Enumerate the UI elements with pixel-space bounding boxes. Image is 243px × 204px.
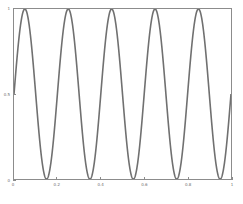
y-tick-label: 0.5	[4, 92, 10, 97]
x-tick-label: 0.2	[54, 182, 60, 187]
x-tick-mark	[56, 177, 57, 180]
x-tick-mark	[232, 177, 233, 180]
x-tick-mark	[188, 177, 189, 180]
y-tick-mark	[13, 94, 16, 95]
sine-curve	[14, 9, 231, 179]
x-tick-label: 0.8	[185, 182, 191, 187]
plot-area	[13, 8, 232, 180]
y-tick-label: 0	[7, 178, 10, 183]
x-tick-label: 0	[12, 182, 15, 187]
y-tick-mark	[13, 8, 16, 9]
y-tick-label: 1	[7, 6, 10, 11]
x-tick-mark	[144, 177, 145, 180]
x-tick-label: 0.6	[141, 182, 147, 187]
y-tick-mark	[13, 180, 16, 181]
x-tick-mark	[100, 177, 101, 180]
x-tick-label: 0.4	[97, 182, 103, 187]
x-tick-label: 1	[231, 182, 234, 187]
sine-curve-path	[14, 9, 231, 179]
chart-figure: 00.20.40.60.81 00.51	[0, 0, 243, 204]
